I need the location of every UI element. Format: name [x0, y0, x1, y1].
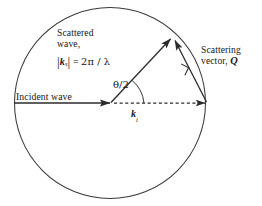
scattering-vector-prefix: vector,: [201, 55, 230, 66]
ks-value: 2π / λ: [81, 56, 110, 68]
scattering-vector-line1: Scattering: [201, 44, 241, 55]
scattered-wave-label: Scattered wave,: [57, 27, 94, 50]
diagram-canvas: [0, 0, 262, 206]
scattered-wave-arrow: [111, 39, 171, 103]
theta-angle-arc: [132, 80, 144, 103]
q-symbol: Q: [230, 55, 238, 66]
ki-label: ki: [131, 108, 138, 122]
scattering-vector-line2: vector, Q: [201, 55, 241, 67]
equals-sign: =: [73, 56, 79, 68]
theta-half-label: θ/2: [113, 79, 129, 91]
abs-bar-open: |: [57, 55, 60, 69]
scattered-wave-line1: Scattered: [57, 27, 94, 38]
scattering-diagram-figure: Scattered wave, |ks|=2π / λ Scattering v…: [0, 0, 262, 206]
scattered-wave-line2: wave,: [57, 38, 94, 49]
ki-subscript: i: [136, 116, 138, 123]
abs-bar-close: |: [68, 55, 71, 69]
incident-wave-label: Incident wave: [16, 91, 72, 102]
scattering-vector-label: Scattering vector, Q: [201, 44, 241, 68]
ks-magnitude-label: |ks|=2π / λ: [57, 55, 110, 69]
